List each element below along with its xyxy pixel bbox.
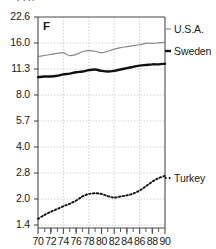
- x-tick-label-90: 90: [159, 235, 170, 247]
- x-tick-label-82: 82: [109, 235, 120, 247]
- x-tick-label-78: 78: [83, 235, 94, 247]
- y-tick-label-22-6: 22.6: [0, 10, 30, 22]
- series-path-usa: [38, 42, 165, 56]
- y-tick-label-2-8: 2.8: [0, 166, 30, 178]
- series-path-sweden: [38, 64, 165, 78]
- x-tick-label-84: 84: [121, 235, 132, 247]
- y-axis-unit-label: F: [43, 20, 50, 32]
- x-tick-label-88: 88: [147, 235, 158, 247]
- y-tick-label-1-4: 1.4: [0, 218, 30, 230]
- legend-label-sweden: Sweden: [174, 45, 211, 57]
- legend-connectors: [165, 29, 171, 178]
- series-paths: [38, 42, 165, 218]
- y-axis-ticks: [34, 17, 38, 225]
- y-tick-label-16-0: 16.0: [0, 36, 30, 48]
- x-tick-label-76: 76: [71, 235, 82, 247]
- y-tick-label-2-0: 2.0: [0, 192, 30, 204]
- x-tick-label-86: 86: [134, 235, 145, 247]
- x-tick-label-80: 80: [96, 235, 107, 247]
- y-tick-label-8-0: 8.0: [0, 88, 30, 100]
- y-tick-label-5-7: 5.7: [0, 114, 30, 126]
- plot-frame: [38, 17, 165, 228]
- vertical-gridlines: [63, 17, 139, 228]
- chart-container: 32.0: [0, 0, 216, 249]
- legend-label-usa: U.S.A.: [174, 23, 204, 35]
- y-tick-label-4-0: 4.0: [0, 140, 30, 152]
- x-tick-label-74: 74: [58, 235, 69, 247]
- x-tick-label-72: 72: [45, 235, 56, 247]
- chart-canvas: [0, 0, 216, 249]
- legend-label-turkey: Turkey: [174, 172, 205, 184]
- y-tick-label-11-3: 11.3: [0, 62, 30, 74]
- series-path-turkey: [38, 176, 165, 219]
- x-tick-label-70: 70: [32, 235, 43, 247]
